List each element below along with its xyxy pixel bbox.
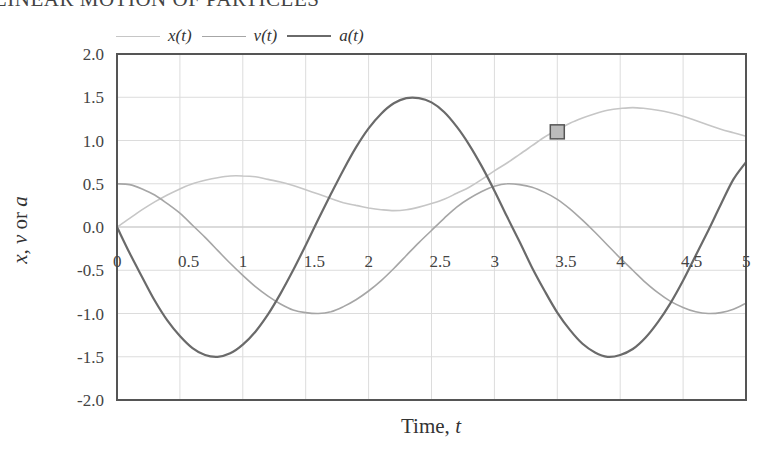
x-tick-labels: 00.511.522.533.544.55 xyxy=(113,252,751,271)
y-tick-label: -1.5 xyxy=(77,348,104,367)
x-tick-label: 0 xyxy=(113,252,122,271)
y-tick-label: -1.0 xyxy=(77,305,104,324)
y-tick-label: 0.0 xyxy=(83,218,104,237)
data-markers xyxy=(550,125,564,139)
x-tick-label: 3.5 xyxy=(555,252,576,271)
marker-square[interactable] xyxy=(550,125,564,139)
x-tick-label: 2 xyxy=(365,252,374,271)
x-tick-label: 1 xyxy=(239,252,248,271)
x-tick-label: 4.5 xyxy=(681,252,702,271)
x-tick-label: 1.5 xyxy=(304,252,325,271)
x-tick-label: 5 xyxy=(742,252,751,271)
y-tick-label: -2.0 xyxy=(77,391,104,410)
y-tick-label: 1.0 xyxy=(83,132,104,151)
x-tick-label: 2.5 xyxy=(430,252,451,271)
x-tick-label: 4 xyxy=(616,252,625,271)
grid-lines xyxy=(117,54,746,400)
y-tick-label: -0.5 xyxy=(77,261,104,280)
y-tick-label: 2.0 xyxy=(83,45,104,64)
x-tick-label: 3 xyxy=(490,252,499,271)
y-tick-labels: 2.01.51.00.50.0-0.5-1.0-1.5-2.0 xyxy=(77,45,104,410)
y-tick-label: 0.5 xyxy=(83,175,104,194)
y-tick-label: 1.5 xyxy=(83,88,104,107)
line-chart: 2.01.51.00.50.0-0.5-1.0-1.5-2.0 00.511.5… xyxy=(0,0,769,460)
x-tick-label: 0.5 xyxy=(178,252,199,271)
